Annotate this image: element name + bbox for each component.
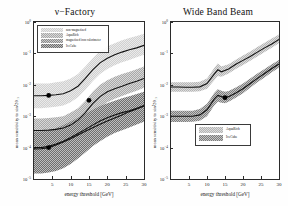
x-tick-label: 5	[188, 182, 191, 187]
legend-swatch-icon	[41, 28, 63, 32]
legend-item[interactable]: magnetized iron calorimeter	[41, 39, 105, 43]
x-axis-label-left: energy threshold [GeV]	[33, 191, 145, 197]
y-tick-label: 10−1	[153, 50, 168, 57]
y-tick-mark	[170, 22, 173, 23]
x-tick-label: 15	[223, 182, 228, 187]
y-axis-label-right: mean sensitivity to sin²2θ₁₃	[152, 97, 157, 148]
legend-right[interactable]: AquaRichIceCube	[195, 124, 251, 146]
legend-swatch-icon	[199, 127, 223, 133]
legend-item[interactable]: IceCube	[41, 44, 105, 48]
y-tick-mark	[170, 53, 173, 54]
legend-label: AquaRich	[66, 34, 79, 37]
legend-label: magnetized iron calorimeter	[66, 39, 101, 42]
legend-swatch-icon	[41, 33, 63, 37]
panel-nu-factory: ν−Factory mean sensitivity to sin²2θ₁₃ e…	[0, 0, 150, 206]
legend-label: IceCube	[66, 45, 76, 48]
y-tick-mark	[170, 148, 173, 149]
x-tick-mark	[261, 176, 262, 179]
legend-swatch-icon	[199, 135, 223, 141]
panel-title-right: Wide Band Beam	[148, 7, 288, 17]
x-axis-label-right: energy threshold [GeV]	[170, 191, 280, 197]
x-tick-label: 30	[277, 182, 282, 187]
y-tick-mark	[33, 53, 36, 54]
x-tick-label: 5	[51, 182, 54, 187]
y-tick-label: 10−5	[153, 176, 168, 183]
legend-swatch-icon	[41, 44, 63, 48]
marker-point	[46, 145, 51, 150]
y-tick-label: 10−2	[153, 82, 168, 89]
legend-label: non-magnetized	[66, 29, 86, 32]
legend-swatch-icon	[41, 39, 63, 43]
x-tick-mark	[71, 176, 72, 179]
x-tick-mark	[107, 176, 108, 179]
y-tick-label: 10−3	[153, 113, 168, 120]
x-tick-mark	[243, 176, 244, 179]
x-tick-mark	[225, 176, 226, 179]
plot-area-right	[170, 21, 280, 180]
y-tick-label: 10−4	[16, 144, 31, 151]
panel-wide-band-beam: Wide Band Beam mean sensitivity to sin²2…	[148, 0, 288, 206]
legend-label: AquaRich	[226, 128, 240, 131]
x-tick-label: 20	[241, 182, 246, 187]
x-tick-label: 25	[259, 182, 264, 187]
marker-point	[223, 95, 228, 100]
x-tick-mark	[52, 176, 53, 179]
y-tick-mark	[33, 116, 36, 117]
x-tick-mark	[279, 176, 280, 179]
y-tick-mark	[33, 179, 36, 180]
marker-point	[87, 98, 92, 103]
y-tick-label: 10−5	[16, 176, 31, 183]
y-tick-label: 10−2	[16, 82, 31, 89]
x-tick-label: 30	[142, 182, 147, 187]
x-tick-label: 15	[87, 182, 92, 187]
legend-item[interactable]: AquaRich	[199, 127, 247, 133]
legend-left[interactable]: non-magnetizedAquaRichmagnetized iron ca…	[37, 25, 109, 53]
panel-title-left: ν−Factory	[0, 7, 150, 17]
y-axis-label-left: mean sensitivity to sin²2θ₁₃	[14, 97, 19, 148]
series-canvas	[171, 22, 279, 179]
y-tick-label: 100	[153, 19, 168, 26]
x-tick-mark	[89, 176, 90, 179]
x-tick-label: 10	[205, 182, 210, 187]
x-tick-mark	[144, 176, 145, 179]
y-tick-mark	[33, 85, 36, 86]
x-tick-mark	[189, 176, 190, 179]
legend-item[interactable]: non-magnetized	[41, 28, 105, 32]
y-tick-label: 10−4	[153, 144, 168, 151]
y-tick-label: 10−3	[16, 113, 31, 120]
y-tick-mark	[170, 85, 173, 86]
legend-item[interactable]: AquaRich	[41, 33, 105, 37]
y-tick-mark	[33, 148, 36, 149]
x-tick-label: 20	[105, 182, 110, 187]
x-tick-mark	[126, 176, 127, 179]
legend-item[interactable]: IceCube	[199, 135, 247, 141]
y-tick-mark	[170, 116, 173, 117]
x-tick-mark	[207, 176, 208, 179]
marker-point	[46, 93, 51, 98]
figure-canvas: ν−Factory mean sensitivity to sin²2θ₁₃ e…	[0, 0, 288, 206]
y-tick-mark	[33, 22, 36, 23]
y-tick-label: 10−1	[16, 50, 31, 57]
y-tick-mark	[170, 179, 173, 180]
band-aquarich	[171, 35, 279, 92]
legend-label: IceCube	[226, 136, 237, 139]
x-tick-label: 10	[68, 182, 73, 187]
y-tick-label: 100	[16, 19, 31, 26]
x-tick-label: 25	[123, 182, 128, 187]
